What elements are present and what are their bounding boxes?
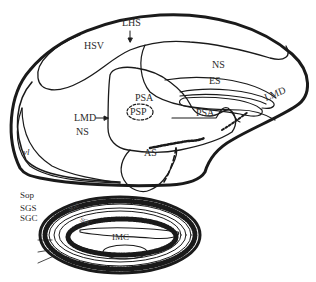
label-lhs: LHS — [122, 18, 141, 28]
telencephalon-outline — [11, 15, 307, 186]
diagram-drawing — [0, 0, 316, 282]
label-lmd-left: LMD — [74, 113, 96, 123]
label-psp: PSP — [130, 107, 147, 117]
label-sop: Sop — [20, 191, 34, 200]
label-as: AS — [144, 148, 157, 158]
label-imc: IMC — [112, 233, 129, 242]
brain-section-diagram: LHS HSV NS ES LMD PSA PSP PSA LMD NS AS … — [0, 0, 316, 282]
label-es: ES — [209, 76, 221, 86]
label-psa-right: PSA — [196, 108, 214, 118]
label-vl: vl — [23, 148, 30, 157]
label-sgs: SGS — [20, 204, 37, 213]
label-sgc: SGC — [20, 214, 38, 223]
label-psa-upper: PSA — [135, 93, 153, 103]
label-ns-left: NS — [76, 127, 89, 137]
label-ns-upper: NS — [212, 60, 225, 70]
label-hsv: HSV — [84, 41, 104, 51]
